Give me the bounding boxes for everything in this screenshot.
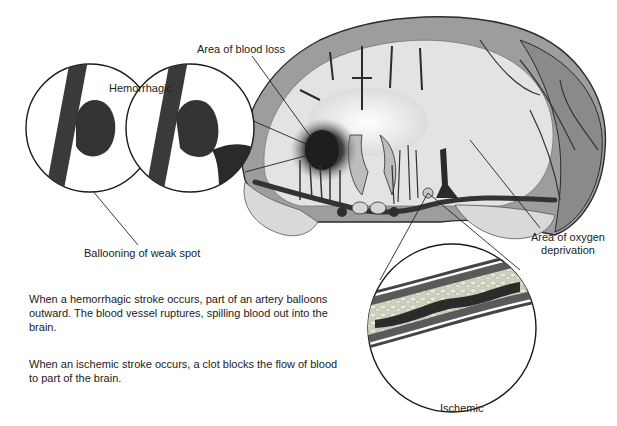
- ischemic-circle-artery: [360, 244, 545, 412]
- brain-cross-section: [242, 17, 605, 239]
- paragraph-hemorrhagic: When a hemorrhagic stroke occurs, part o…: [29, 292, 349, 334]
- hemorrhagic-circle-rupture: [126, 60, 260, 200]
- label-oxygen-line2: deprivation: [541, 244, 595, 256]
- label-area-of-oxygen-deprivation: Area of oxygen deprivation: [528, 231, 608, 257]
- label-ballooning-weak-spot: Ballooning of weak spot: [84, 247, 200, 260]
- label-ischemic: Ischemic: [440, 402, 483, 415]
- paragraph-ischemic: When an ischemic stroke occurs, a clot b…: [29, 357, 349, 385]
- label-oxygen-line1: Area of oxygen: [531, 231, 605, 243]
- label-area-of-blood-loss: Area of blood loss: [197, 43, 285, 56]
- label-hemorrhagic: Hemorrhagic: [109, 82, 172, 95]
